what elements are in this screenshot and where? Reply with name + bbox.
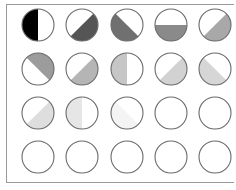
shaded-circle — [155, 141, 187, 173]
circle-outline — [22, 141, 54, 173]
circle-shading — [199, 58, 226, 85]
shaded-circle — [155, 9, 187, 41]
circle-shading — [111, 102, 138, 129]
shaded-circle — [22, 141, 54, 173]
circle-shading — [27, 102, 54, 129]
shaded-circle — [199, 53, 231, 85]
circle-shading — [155, 25, 187, 41]
circle-outline — [199, 141, 231, 173]
circle-outline — [66, 141, 98, 173]
shaded-circle — [155, 53, 187, 85]
shaded-circle — [66, 9, 98, 41]
circle-outline — [111, 141, 143, 173]
shaded-circle — [66, 141, 98, 173]
circle-shading — [22, 9, 38, 41]
circle-shading — [66, 97, 82, 129]
shaded-circle — [22, 97, 54, 129]
circle-shading — [111, 14, 138, 41]
shaded-circle — [66, 97, 98, 129]
shaded-circle — [111, 141, 143, 173]
circle-shading — [27, 53, 54, 80]
shaded-circle — [111, 53, 143, 85]
circle-outline — [155, 97, 187, 129]
shaded-circle — [22, 53, 54, 85]
shaded-circle — [199, 9, 231, 41]
shaded-circle — [111, 9, 143, 41]
shaded-circle — [22, 9, 54, 41]
shaded-circle-grid — [0, 0, 236, 190]
circle-shading — [71, 58, 98, 85]
circle-shading — [71, 14, 98, 41]
shaded-circle — [66, 53, 98, 85]
circle-shading — [204, 14, 231, 41]
circle-outline — [199, 97, 231, 129]
shaded-circle — [199, 97, 231, 129]
circle-shading — [111, 53, 127, 85]
circle-outline — [155, 141, 187, 173]
shaded-circle — [199, 141, 231, 173]
shaded-circle — [111, 97, 143, 129]
shaded-circle — [155, 97, 187, 129]
circle-shading — [160, 58, 187, 85]
